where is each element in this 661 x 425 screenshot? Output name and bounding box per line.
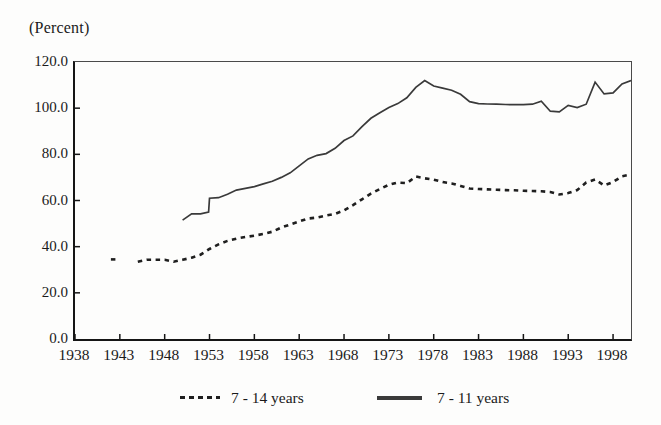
- x-tick-label: 1968: [320, 346, 366, 364]
- y-tick-label: 120.0: [6, 52, 68, 70]
- x-tick-label: 1958: [230, 346, 276, 364]
- legend-dashed-line-swatch: [180, 396, 220, 399]
- series-line-7-11years: [183, 81, 631, 221]
- x-tick-label: 1978: [410, 346, 456, 364]
- y-tick-label: 60.0: [6, 191, 68, 209]
- legend-label-7-14-years: 7 - 14 years: [231, 388, 304, 407]
- series-line-7-14years: [138, 174, 631, 261]
- plot-area: [73, 61, 632, 341]
- y-axis-unit-label: (Percent): [29, 19, 89, 37]
- x-tick-label: 1943: [96, 346, 142, 364]
- legend-label-7-11-years: 7 - 11 years: [437, 388, 509, 407]
- x-tick-label: 1948: [141, 346, 187, 364]
- legend-solid-line-swatch: [377, 396, 422, 400]
- x-tick-label: 1998: [589, 346, 635, 364]
- x-tick-label: 1993: [544, 346, 590, 364]
- x-tick-label: 1973: [365, 346, 411, 364]
- x-tick-label: 1983: [455, 346, 501, 364]
- plot-svg: [75, 62, 631, 339]
- x-tick-label: 1963: [275, 346, 321, 364]
- x-tick-label: 1988: [499, 346, 545, 364]
- y-tick-label: 80.0: [6, 144, 68, 162]
- y-tick-label: 40.0: [6, 237, 68, 255]
- y-tick-label: 100.0: [6, 98, 68, 116]
- y-tick-label: 0.0: [6, 329, 68, 347]
- chart-figure: (Percent) 0.020.040.060.080.0100.0120.0 …: [0, 0, 661, 425]
- x-tick-label: 1953: [186, 346, 232, 364]
- y-tick-label: 20.0: [6, 283, 68, 301]
- x-tick-label: 1938: [51, 346, 97, 364]
